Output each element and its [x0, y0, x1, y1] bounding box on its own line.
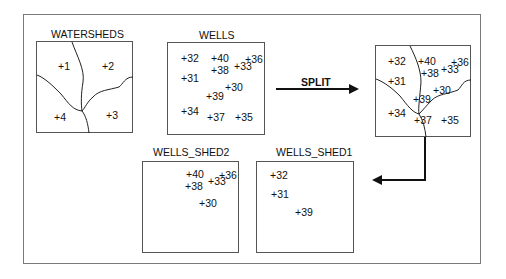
well-label: +37: [414, 115, 432, 126]
well-label: +33: [441, 64, 459, 75]
well-label: +38: [211, 65, 229, 76]
watershed-label-4: +4: [54, 112, 66, 123]
split-label: SPLIT: [301, 76, 331, 88]
watershed-label-1: +1: [58, 61, 70, 72]
well-label: +35: [441, 115, 459, 126]
wells-shed2-title: WELLS_SHED2: [153, 146, 229, 158]
well-label: +30: [433, 85, 451, 96]
watershed-boundaries: [37, 42, 134, 134]
watershed-label-2: +2: [102, 61, 114, 72]
boundary-east: [82, 77, 133, 111]
well-label: +40: [211, 53, 229, 64]
well-label: +30: [225, 82, 243, 93]
wells-title: WELLS: [199, 29, 235, 41]
well-label: +32: [270, 170, 288, 181]
well-label: +37: [207, 112, 225, 123]
well-label: +40: [418, 56, 436, 67]
wells-shed1-title: WELLS_SHED1: [276, 146, 352, 158]
watershed-label-3: +3: [106, 110, 118, 121]
well-label: +39: [206, 91, 224, 102]
wells-shed1-panel: +32 +31 +39: [256, 161, 354, 253]
well-label: +32: [181, 53, 199, 64]
well-label: +34: [388, 108, 406, 119]
well-label: +35: [235, 112, 253, 123]
boundary-west: [37, 75, 82, 111]
boundary-north: [72, 42, 83, 111]
well-label: +31: [181, 73, 199, 84]
boundary-south: [82, 111, 89, 133]
well-label: +31: [271, 189, 289, 200]
well-label: +38: [421, 68, 439, 79]
well-label: +39: [295, 207, 313, 218]
overlay-panel: +32 +40 +36 +33 +38 +31 +30 +39 +34 +37 …: [375, 45, 471, 137]
well-label: +39: [413, 94, 431, 105]
watersheds-title: WATERSHEDS: [51, 28, 124, 40]
well-label: +32: [388, 56, 406, 67]
well-label: +30: [199, 198, 217, 209]
well-label: +40: [186, 169, 204, 180]
wells-shed2-panel: +40 +36 +33 +38 +30: [142, 161, 239, 253]
well-label: +33: [234, 61, 252, 72]
well-label: +34: [181, 106, 199, 117]
well-label: +38: [185, 181, 203, 192]
well-label: +31: [388, 76, 406, 87]
wells-panel: +32 +40 +36 +33 +38 +31 +30 +39 +34 +37 …: [167, 42, 265, 135]
well-label: +33: [208, 176, 226, 187]
watersheds-panel: +1 +2 +3 +4: [36, 41, 133, 133]
